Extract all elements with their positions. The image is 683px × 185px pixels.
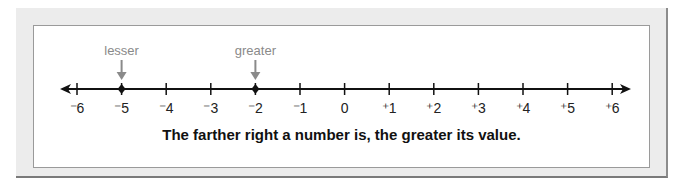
tick-label: ⁻1	[293, 100, 308, 116]
tick-label: ⁺5	[560, 100, 575, 116]
tick-label: ⁻5	[114, 100, 129, 116]
tick-label: ⁻3	[203, 100, 218, 116]
caption: The farther right a number is, the great…	[0, 126, 683, 143]
point-label-lesser: lesser	[104, 43, 139, 58]
point-marker	[118, 84, 126, 94]
down-arrow-icon	[117, 72, 127, 80]
number-line: ⁻6⁻5⁻4⁻3⁻2⁻10⁺1⁺2⁺3⁺4⁺5⁺6lessergreater	[0, 0, 683, 185]
tick-label: ⁺3	[471, 100, 486, 116]
tick-label: ⁻2	[248, 100, 263, 116]
tick-label: ⁺4	[516, 100, 531, 116]
tick-label: ⁺2	[426, 100, 441, 116]
tick-label: 0	[341, 100, 349, 116]
tick-label: ⁺1	[382, 100, 397, 116]
point-label-greater: greater	[235, 43, 277, 58]
down-arrow-icon	[250, 72, 260, 80]
tick-label: ⁺6	[605, 100, 620, 116]
point-marker	[251, 84, 259, 94]
tick-label: ⁻6	[70, 100, 85, 116]
tick-label: ⁻4	[159, 100, 174, 116]
